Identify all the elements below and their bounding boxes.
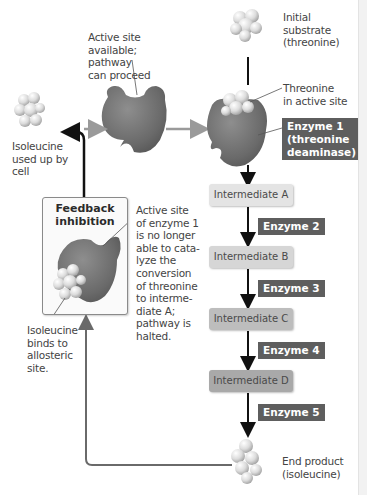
enzyme-5-label: Enzyme 5 [258, 404, 325, 421]
isoleucine-binds-label: Isoleucine binds to allosteric site. [27, 324, 78, 374]
end-product-label: End product (isoleucine) [282, 455, 343, 480]
intermediate-d: Intermediate D [209, 370, 293, 392]
threonine-active-site-label: Threonine in active site [283, 82, 347, 107]
enzyme-3-label: Enzyme 3 [258, 280, 325, 297]
threonine-molecule-icon [230, 9, 262, 42]
active-site-inhibited-label: Active site of enzyme 1 is no longer abl… [136, 204, 200, 343]
initial-substrate-label: Initial substrate (threonine) [283, 11, 339, 49]
feedback-inhibition-box: Feedback inhibition [42, 197, 128, 315]
enzyme-1-label: Enzyme 1 (threonine deaminase) [282, 118, 358, 160]
intermediate-c: Intermediate C [209, 308, 293, 330]
inhibited-enzyme-icon [43, 198, 127, 314]
threonine-bound-icon [221, 90, 254, 116]
isoleucine-molecule-icon [231, 439, 262, 484]
isoleucine-used-icon [14, 92, 45, 127]
isoleucine-used-label: Isoleucine used up by cell [12, 140, 68, 178]
enzyme-4-label: Enzyme 4 [258, 342, 325, 359]
intermediate-b: Intermediate B [209, 246, 293, 268]
enzyme-2-label: Enzyme 2 [258, 218, 325, 235]
active-site-available-label: Active site available; pathway can proce… [88, 31, 151, 81]
intermediate-a: Intermediate A [209, 184, 293, 206]
enzyme-free-icon [102, 86, 167, 153]
